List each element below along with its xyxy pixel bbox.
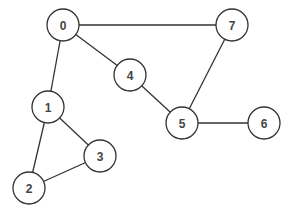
- node-2: 2: [13, 172, 45, 204]
- node-label: 6: [261, 117, 268, 131]
- node-7: 7: [216, 9, 248, 41]
- graph-canvas: 01234567: [0, 0, 294, 214]
- node-label: 2: [26, 182, 33, 196]
- node-1: 1: [32, 91, 64, 123]
- node-label: 5: [179, 117, 186, 131]
- node-label: 7: [229, 19, 236, 33]
- node-label: 3: [97, 150, 104, 164]
- node-6: 6: [248, 107, 280, 139]
- node-0: 0: [47, 9, 79, 41]
- node-3: 3: [84, 140, 116, 172]
- node-label: 1: [45, 101, 52, 115]
- node-label: 0: [60, 19, 67, 33]
- node-label: 4: [127, 69, 134, 83]
- nodes-group: 01234567: [13, 9, 280, 204]
- node-5: 5: [166, 107, 198, 139]
- node-4: 4: [114, 59, 146, 91]
